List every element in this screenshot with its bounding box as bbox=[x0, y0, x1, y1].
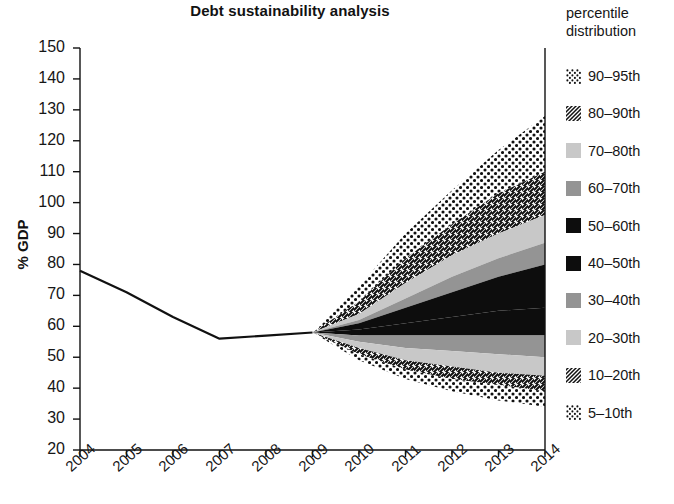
legend-item-50-60th: 50–60th bbox=[566, 216, 674, 236]
legend-swatch-hatch bbox=[566, 368, 581, 383]
legend-label: 40–50th bbox=[588, 255, 640, 271]
legend-title: percentile distribution bbox=[566, 4, 674, 40]
legend-item-10-20th: 10–20th bbox=[566, 365, 674, 385]
legend-label: 80–90th bbox=[588, 105, 640, 121]
y-tick-label: 100 bbox=[25, 193, 65, 211]
legend-swatch-dots bbox=[566, 405, 581, 420]
legend-swatch-solid bbox=[566, 181, 581, 196]
y-tick-label: 80 bbox=[25, 254, 65, 272]
y-axis-title: % GDP bbox=[14, 205, 31, 285]
legend-title-line2: distribution bbox=[566, 22, 674, 40]
y-tick-label: 40 bbox=[25, 378, 65, 396]
y-tick-label: 70 bbox=[25, 285, 65, 303]
history-path bbox=[80, 271, 313, 339]
y-tick-label: 130 bbox=[25, 100, 65, 118]
chart-title: Debt sustainability analysis bbox=[140, 2, 440, 19]
historical-debt-line bbox=[80, 271, 313, 339]
y-tick-label: 110 bbox=[25, 162, 65, 180]
fan-bands bbox=[313, 116, 546, 407]
legend-item-5-10th: 5–10th bbox=[566, 403, 674, 423]
legend-item-80-90th: 80–90th bbox=[566, 103, 674, 123]
legend-label: 10–20th bbox=[588, 367, 640, 383]
legend-label: 5–10th bbox=[588, 405, 632, 421]
legend-label: 30–40th bbox=[588, 292, 640, 308]
legend-title-line1: percentile bbox=[566, 4, 674, 22]
legend-label: 50–60th bbox=[588, 218, 640, 234]
legend-item-40-50th: 40–50th bbox=[566, 253, 674, 273]
legend-item-30-40th: 30–40th bbox=[566, 290, 674, 310]
y-tick-label: 30 bbox=[25, 409, 65, 427]
y-tick-label: 140 bbox=[25, 69, 65, 87]
y-tick-label: 120 bbox=[25, 131, 65, 149]
y-tick-label: 90 bbox=[25, 224, 65, 242]
legend-item-90-95th: 90–95th bbox=[566, 66, 674, 86]
y-tick-label: 50 bbox=[25, 347, 65, 365]
legend-swatch-solid bbox=[566, 256, 581, 271]
y-tick-label: 60 bbox=[25, 316, 65, 334]
legend-label: 20–30th bbox=[588, 330, 640, 346]
legend-swatch-solid bbox=[566, 293, 581, 308]
legend-swatch-solid bbox=[566, 330, 581, 345]
y-tick-label: 20 bbox=[25, 440, 65, 458]
debt-sustainability-fan-chart: Debt sustainability analysis % GDP 15014… bbox=[0, 0, 674, 504]
legend-label: 60–70th bbox=[588, 180, 640, 196]
legend-swatch-hatch bbox=[566, 106, 581, 121]
legend-swatch-dots bbox=[566, 69, 581, 84]
legend-item-20-30th: 20–30th bbox=[566, 328, 674, 348]
legend-label: 70–80th bbox=[588, 143, 640, 159]
legend-item-70-80th: 70–80th bbox=[566, 141, 674, 161]
y-tick-label: 150 bbox=[25, 38, 65, 56]
legend-item-60-70th: 60–70th bbox=[566, 178, 674, 198]
legend-swatch-solid bbox=[566, 218, 581, 233]
legend-swatch-solid bbox=[566, 143, 581, 158]
legend-label: 90–95th bbox=[588, 68, 640, 84]
